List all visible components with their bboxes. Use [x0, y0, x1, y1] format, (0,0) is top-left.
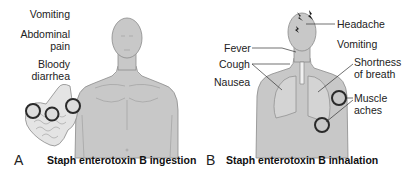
figure-a-body: [75, 18, 178, 158]
caption-b: Staph enterotoxin B inhalation: [226, 154, 378, 166]
muscle-ache-circle: [315, 118, 329, 132]
symptom-bloody-diarrhea-line1: Bloody: [38, 58, 70, 70]
symptom-cough: Cough: [219, 58, 250, 70]
affected-area-circle: [26, 104, 40, 118]
affected-area-circle: [46, 108, 59, 121]
symptom-bloody-diarrhea-line2: diarrhea: [31, 70, 70, 82]
intestines-illustration: [25, 84, 80, 146]
caption-a: Staph enterotoxin B ingestion: [47, 154, 196, 166]
affected-area-circle: [66, 99, 80, 113]
symptom-vomiting-b: Vomiting: [337, 38, 377, 50]
symptom-vomiting-a: Vomiting: [30, 8, 70, 20]
symptom-shortness-of-breath-line1: Shortness: [354, 56, 401, 68]
figure-b-body: [256, 13, 348, 158]
symptom-abdominal-pain-line1: Abdominal: [20, 28, 70, 40]
symptom-abdominal-pain-line2: pain: [50, 40, 70, 52]
symptom-fever: Fever: [224, 42, 251, 54]
panel-letter-a: A: [14, 152, 23, 168]
muscle-ache-circle: [332, 91, 346, 105]
symptom-shortness-of-breath-line2: of breath: [354, 68, 395, 80]
symptom-muscle-aches-line1: Muscle: [354, 92, 387, 104]
symptom-nausea: Nausea: [214, 76, 250, 88]
panel-letter-b: B: [206, 152, 215, 168]
symptom-headache: Headache: [337, 18, 385, 30]
symptom-muscle-aches-line2: aches: [354, 104, 382, 116]
